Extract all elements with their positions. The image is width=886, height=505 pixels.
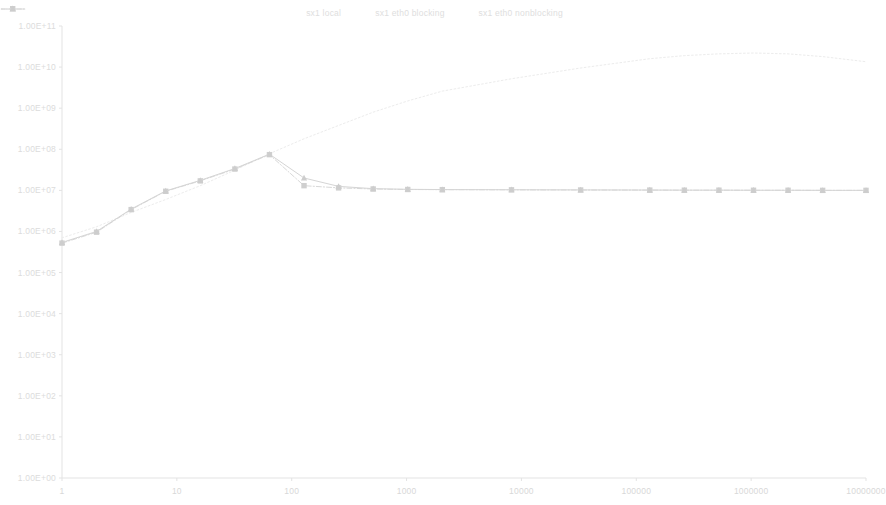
x-axis-tick-label: 100000	[621, 486, 651, 496]
x-axis-tick-label: 1	[60, 486, 65, 496]
x-axis-tick-label: 10000	[509, 486, 534, 496]
x-axis-tick-label: 1000	[397, 486, 417, 496]
x-axis-tick-label: 1000000	[734, 486, 769, 496]
x-axis-tick-label: 10	[172, 486, 182, 496]
x-axis-tick-label: 10000000	[846, 486, 885, 496]
x-axis-tick-label: 100	[284, 486, 299, 496]
